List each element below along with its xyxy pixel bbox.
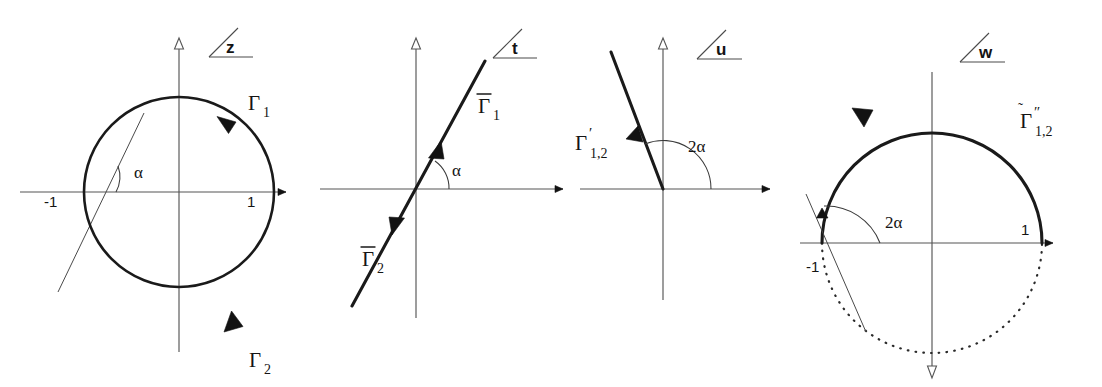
u-angle-label: 2α [688, 137, 706, 156]
z-gamma2-sub: 2 [264, 362, 271, 377]
z-gamma1-base: Γ [248, 91, 260, 115]
u-y-axis-arrow-icon [659, 38, 668, 49]
t-gamma1-sub: 1 [493, 108, 500, 123]
conformal-mapping-figure: z -1 1 α Γ 1 Γ 2 t Γ [0, 0, 1102, 387]
t-gamma1-direction-arrow-icon [429, 141, 445, 159]
panel-t-plane: t Γ 1 Γ 2 α [320, 29, 563, 318]
t-gamma2-base: Γ [362, 247, 374, 271]
w-gamma-label: Γ 1,2 ˜ ″ [1018, 100, 1053, 139]
t-plane-label: t [512, 39, 518, 58]
u-plane-label: u [716, 40, 726, 59]
z-gamma2-label: Γ 2 [249, 348, 271, 377]
w-plane-label: w [978, 43, 993, 62]
w-right-point-label: 1 [1021, 221, 1029, 238]
u-gamma-label: Γ 1,2 ′ [575, 125, 608, 161]
w-x-axis-arrow-icon [1045, 240, 1053, 247]
t-gamma1-base: Γ [478, 94, 490, 118]
w-angle-arc [824, 206, 880, 243]
t-gamma2-sub: 2 [377, 261, 384, 276]
t-gamma1-label: Γ 1 [477, 94, 500, 123]
u-gamma-prime-icon: ′ [589, 125, 592, 141]
panel-w-plane: w -1 1 2α Γ 1,2 ˜ ″ [800, 33, 1053, 378]
w-gamma-doubleprime-icon: ″ [1034, 104, 1040, 120]
z-y-axis-arrow-icon [175, 38, 184, 49]
u-gamma-sub: 1,2 [590, 146, 608, 161]
z-x-axis-arrow-icon [278, 189, 286, 196]
w-left-point-label: -1 [806, 258, 819, 275]
t-gamma2-direction-arrow-icon [389, 217, 405, 235]
panel-u-plane: u Γ 1,2 ′ 2α [575, 30, 770, 300]
u-gamma-base: Γ [575, 131, 587, 155]
w-angle-label: 2α [885, 213, 903, 232]
z-right-point-label: 1 [247, 193, 255, 210]
z-left-point-label: -1 [44, 193, 57, 210]
z-plane-label: z [226, 38, 235, 57]
t-angle-label: α [452, 161, 461, 180]
z-gamma1-direction-arrow-icon [217, 117, 236, 134]
w-gamma-tilde-icon: ˜ [1018, 100, 1023, 116]
z-gamma1-label: Γ 1 [248, 91, 270, 120]
z-angle-label: α [134, 163, 143, 182]
w-gamma-direction-arrow-icon [852, 108, 873, 127]
t-angle-arc [435, 161, 449, 189]
w-gamma-sub: 1,2 [1035, 124, 1053, 139]
panel-z-plane: z -1 1 α Γ 1 Γ 2 [20, 28, 286, 377]
t-y-axis-arrow-icon [412, 38, 421, 49]
figure-canvas: z -1 1 α Γ 1 Γ 2 t Γ [0, 0, 1102, 387]
z-gamma2-direction-arrow-icon [224, 311, 243, 332]
w-y-axis-arrow-icon [928, 366, 937, 378]
t-x-axis-arrow-icon [555, 186, 563, 193]
u-x-axis-arrow-icon [762, 186, 770, 193]
z-gamma2-base: Γ [249, 348, 261, 372]
z-gamma1-sub: 1 [263, 105, 270, 120]
u-mapped-ray [611, 52, 663, 189]
